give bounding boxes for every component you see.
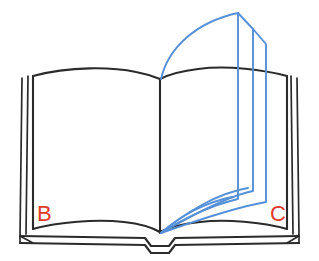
left-page-label: B [37,201,52,226]
left-page-surface [33,68,160,232]
left-cover-boards [20,76,33,243]
right-page-label: C [270,201,286,226]
right-cover-boards [287,76,299,243]
open-book-illustration: B C [0,0,319,261]
figure-canvas: B C [0,0,319,261]
right-page-surface [160,68,287,232]
book-cover [20,236,299,253]
